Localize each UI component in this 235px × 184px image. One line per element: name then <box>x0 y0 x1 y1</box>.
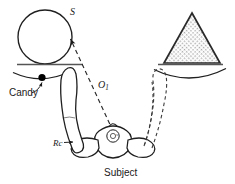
subject-label: Subject <box>104 168 137 178</box>
subject-right-shoulder <box>127 138 155 157</box>
candy-target <box>38 74 45 81</box>
right-arm-dashed-inner <box>144 82 153 146</box>
right-arm-dashed <box>144 69 167 148</box>
rc-pointer-arrow <box>64 142 73 143</box>
reach-label: Rc <box>53 139 63 148</box>
candy-label: Candy <box>9 88 38 98</box>
head-marker-label: s <box>116 132 118 137</box>
sphere-label: S <box>70 7 75 17</box>
triangle-stimulus <box>164 13 220 63</box>
gaze-label: O1 <box>98 80 109 92</box>
gaze-label-subscript: 1 <box>105 84 109 92</box>
figure-canvas: S O1 Rc Candy Subject s <box>0 0 235 184</box>
sphere-stimulus <box>18 10 72 64</box>
left-arm-solid <box>61 68 84 153</box>
